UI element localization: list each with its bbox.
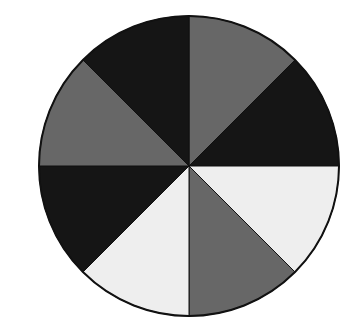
circle-slices	[39, 16, 339, 316]
divided-circle-figure	[0, 0, 362, 323]
